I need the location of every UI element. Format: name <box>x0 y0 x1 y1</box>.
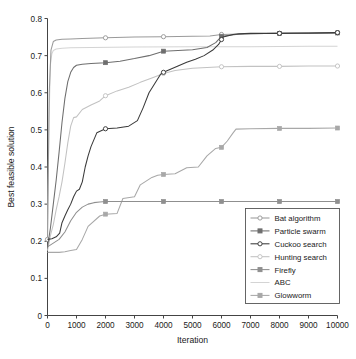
legend-marker-bat-algorithm <box>258 216 262 220</box>
x-tick-label: 2000 <box>96 321 115 330</box>
y-tick-label: 0.4 <box>31 163 43 172</box>
series-marker-firefly <box>336 200 340 204</box>
legend-label-hunting-search: Hunting search <box>275 253 327 262</box>
y-tick-label: 0.7 <box>31 52 43 61</box>
x-tick-label: 8000 <box>270 321 289 330</box>
series-marker-glowworm <box>220 145 224 149</box>
series-marker-glowworm <box>278 126 282 130</box>
series-marker-glowworm <box>336 126 340 130</box>
series-marker-bat-algorithm <box>103 36 107 40</box>
x-tick-label: 9000 <box>299 321 318 330</box>
series-marker-bat-algorithm <box>161 35 165 39</box>
legend-marker-particle-swarm <box>258 229 262 233</box>
series-marker-cuckoo-search <box>335 31 339 35</box>
legend-marker-hunting-search <box>258 255 262 259</box>
series-marker-particle-swarm <box>104 61 108 65</box>
series-marker-cuckoo-search <box>161 70 165 74</box>
series-marker-hunting-search <box>335 64 339 68</box>
y-tick-label: 0.8 <box>31 15 43 24</box>
series-marker-glowworm <box>104 212 108 216</box>
y-tick-label: 0.6 <box>31 89 43 98</box>
y-tick-label: 0.3 <box>31 200 43 209</box>
y-tick-label: 0.2 <box>31 237 43 246</box>
legend-marker-cuckoo-search <box>258 242 262 246</box>
legend-label-bat-algorithm: Bat algorithm <box>275 214 321 223</box>
line-chart: 00.10.20.30.40.50.60.70.8010002000300040… <box>0 0 356 359</box>
legend-label-abc: ABC <box>275 278 291 287</box>
x-tick-label: 0 <box>45 321 50 330</box>
x-tick-label: 4000 <box>154 321 173 330</box>
x-tick-label: 10000 <box>326 321 349 330</box>
y-axis-title: Best feasible solution <box>6 126 16 207</box>
x-tick-label: 6000 <box>212 321 231 330</box>
x-tick-label: 3000 <box>125 321 144 330</box>
series-marker-glowworm <box>162 172 166 176</box>
series-marker-hunting-search <box>219 65 223 69</box>
legend-marker-glowworm <box>258 293 262 297</box>
series-marker-cuckoo-search <box>277 31 281 35</box>
y-tick-label: 0.1 <box>31 274 43 283</box>
series-marker-firefly <box>104 200 108 204</box>
legend-label-glowworm: Glowworm <box>275 291 312 300</box>
legend-label-particle-swarm: Particle swarm <box>275 227 326 236</box>
x-tick-label: 7000 <box>241 321 260 330</box>
legend-label-cuckoo-search: Cuckoo search <box>275 240 327 249</box>
series-marker-firefly <box>220 200 224 204</box>
series-marker-hunting-search <box>277 64 281 68</box>
legend-marker-firefly <box>258 268 262 272</box>
y-tick-label: 0.5 <box>31 126 43 135</box>
y-tick-label: 0 <box>37 312 42 321</box>
series-marker-firefly <box>162 200 166 204</box>
series-marker-particle-swarm <box>162 49 166 53</box>
legend-label-firefly: Firefly <box>275 266 296 275</box>
series-marker-cuckoo-search <box>103 127 107 131</box>
series-marker-hunting-search <box>103 94 107 98</box>
chart-figure: 00.10.20.30.40.50.60.70.8010002000300040… <box>0 0 356 359</box>
x-tick-label: 5000 <box>183 321 202 330</box>
x-tick-label: 1000 <box>67 321 86 330</box>
series-marker-firefly <box>278 200 282 204</box>
series-marker-cuckoo-search <box>219 37 223 41</box>
x-axis-title: Iteration <box>177 335 208 345</box>
